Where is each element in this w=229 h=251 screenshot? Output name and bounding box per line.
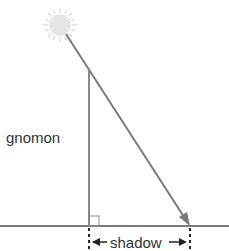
sun-ray-line: [66, 34, 186, 220]
shadow-label: shadow: [110, 234, 162, 251]
diagram-graphic: [0, 0, 229, 251]
right-angle-marker: [89, 216, 99, 226]
left-arrowhead-icon: [92, 238, 100, 246]
arrowhead-icon: [179, 212, 190, 226]
right-arrowhead-icon: [179, 238, 187, 246]
gnomon-label: gnomon: [6, 129, 60, 146]
sun-icon: [43, 8, 77, 42]
sundial-diagram: gnomon shadow: [0, 0, 229, 251]
